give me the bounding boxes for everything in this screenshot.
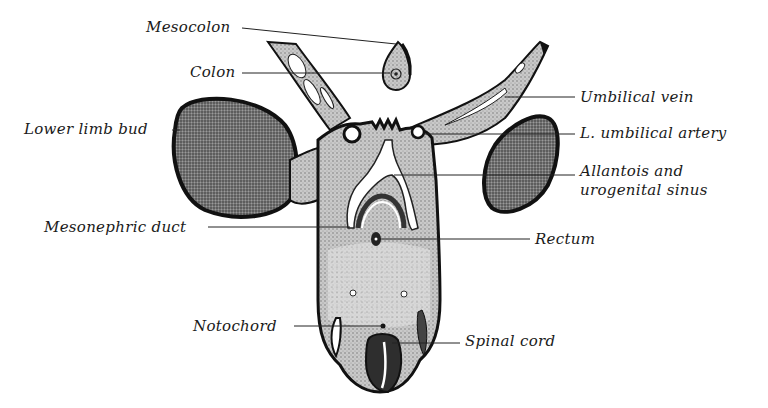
label-allantois-line2: urogenital sinus [580, 182, 708, 199]
label-mesonephric-duct: Mesonephric duct [44, 219, 186, 236]
left-umbilical-artery-lumen [412, 126, 424, 138]
label-lower-limb-bud: Lower limb bud [24, 121, 148, 138]
label-allantois-line1: Allantois and [580, 163, 683, 180]
embryo-cross-section-figure: Mesocolon Colon Lower limb bud Mesonephr… [0, 0, 768, 408]
label-rectum: Rectum [535, 231, 595, 248]
colon-and-mesocolon [383, 42, 410, 90]
label-colon: Colon [190, 64, 236, 81]
left-umbilical-artery [344, 126, 360, 142]
label-umbilical-vein: Umbilical vein [580, 89, 694, 106]
diagram-canvas [0, 0, 768, 408]
label-notochord: Notochord [193, 318, 277, 335]
right-lower-limb-bud [484, 116, 558, 211]
leader-mesocolon [242, 28, 396, 44]
left-lower-limb-bud [174, 99, 318, 217]
label-l-umbilical-artery: L. umbilical artery [580, 125, 727, 142]
trunk-cross-section [318, 120, 440, 392]
label-spinal-cord: Spinal cord [465, 333, 555, 350]
label-mesocolon: Mesocolon [146, 19, 231, 36]
left-umbilical-process [268, 42, 350, 130]
